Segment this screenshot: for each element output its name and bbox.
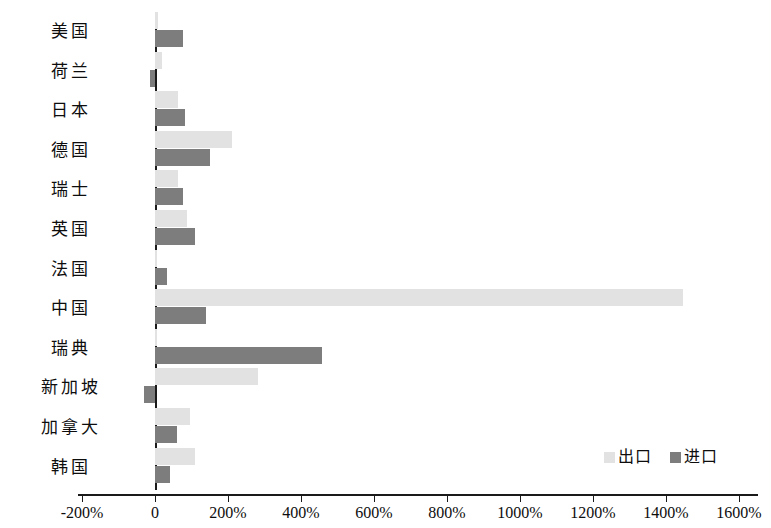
- x-axis-line: [78, 494, 758, 496]
- bar-export: [155, 368, 258, 385]
- bar-import: [155, 426, 177, 443]
- category-label: 德国: [0, 141, 142, 160]
- x-axis-tick: [228, 494, 229, 502]
- bar-export: [155, 289, 683, 306]
- legend-label: 出口: [618, 448, 652, 466]
- x-axis-tick-label: 800%: [407, 503, 487, 523]
- x-axis-tick: [520, 494, 521, 502]
- legend-label: 进口: [684, 448, 718, 466]
- x-axis-tick: [155, 494, 156, 502]
- bar-import: [150, 70, 155, 87]
- bar-export: [155, 52, 162, 69]
- plot-area: [155, 12, 771, 490]
- category-label: 中国: [0, 299, 142, 318]
- category-label: 美国: [0, 22, 142, 41]
- x-axis-tick-label: 400%: [261, 503, 341, 523]
- bar-export: [155, 170, 178, 187]
- category-label: 法国: [0, 260, 142, 279]
- bar-export: [155, 329, 157, 346]
- legend-swatch-icon: [604, 452, 615, 463]
- category-label: 瑞典: [0, 339, 142, 358]
- bar-import: [155, 268, 167, 285]
- bar-export: [155, 210, 187, 227]
- x-axis-tick: [593, 494, 594, 502]
- category-label: 荷兰: [0, 62, 142, 81]
- x-axis-tick-label: 1600%: [699, 503, 771, 523]
- category-label: 瑞士: [0, 180, 142, 199]
- x-axis-tick-label: 0: [115, 503, 195, 523]
- bar-export: [155, 12, 158, 29]
- x-axis-tick-label: 1400%: [626, 503, 706, 523]
- x-axis-tick: [374, 494, 375, 502]
- x-axis-tick: [666, 494, 667, 502]
- bar-import: [155, 347, 322, 364]
- bar-import: [155, 30, 183, 47]
- bar-import: [155, 109, 185, 126]
- bar-import: [155, 149, 210, 166]
- category-label: 英国: [0, 220, 142, 239]
- bar-export: [155, 91, 178, 108]
- x-axis-tick-label: 1200%: [553, 503, 633, 523]
- legend-swatch-icon: [670, 452, 681, 463]
- x-axis-tick-label: -200%: [42, 503, 122, 523]
- bar-chart: 美国荷兰日本德国瑞士英国法国中国瑞典新加坡加拿大韩国 -200%0200%400…: [0, 0, 771, 528]
- bar-export: [155, 250, 157, 267]
- x-axis-tick: [82, 494, 83, 502]
- x-axis-tick: [447, 494, 448, 502]
- x-axis-tick-label: 600%: [334, 503, 414, 523]
- bar-import: [155, 466, 170, 483]
- chart-legend: 出口进口: [604, 446, 718, 468]
- category-label: 韩国: [0, 458, 142, 477]
- x-axis-tick-label: 1000%: [480, 503, 560, 523]
- bar-export: [155, 408, 190, 425]
- bar-import: [155, 307, 206, 324]
- legend-entry[interactable]: 出口: [604, 448, 652, 466]
- legend-entry[interactable]: 进口: [670, 448, 718, 466]
- category-label: 新加坡: [0, 378, 142, 397]
- category-label: 加拿大: [0, 418, 142, 437]
- x-axis-tick: [739, 494, 740, 502]
- bar-import: [155, 228, 195, 245]
- category-axis: 美国荷兰日本德国瑞士英国法国中国瑞典新加坡加拿大韩国: [0, 12, 150, 490]
- bar-export: [155, 448, 195, 465]
- bar-import: [144, 386, 155, 403]
- bar-export: [155, 131, 232, 148]
- category-label: 日本: [0, 101, 142, 120]
- bar-import: [155, 188, 183, 205]
- x-axis-tick-label: 200%: [188, 503, 268, 523]
- x-axis-tick: [301, 494, 302, 502]
